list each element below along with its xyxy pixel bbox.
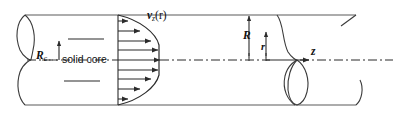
left-break-inner [25, 15, 34, 60]
velocity-argument: (r) [155, 9, 167, 21]
core-radius-subscript: c [44, 54, 47, 63]
axial-coordinate-label: z [311, 46, 315, 58]
velocity-arrows [118, 21, 160, 99]
right-break-loop [288, 60, 308, 105]
radial-coordinate-label: r [261, 42, 265, 53]
velocity-profile-label: vz(r) [147, 10, 167, 22]
pipe-flow-diagram: Rc solid core vz(r) R r z [0, 0, 397, 117]
diagram-canvas [0, 0, 397, 117]
pipe-radius-label: R [243, 30, 251, 42]
right-edge-curve [356, 80, 362, 105]
solid-core-label: solid core [62, 54, 107, 65]
right-top-chamfer [341, 15, 356, 26]
core-radius-label: Rc [36, 50, 47, 62]
